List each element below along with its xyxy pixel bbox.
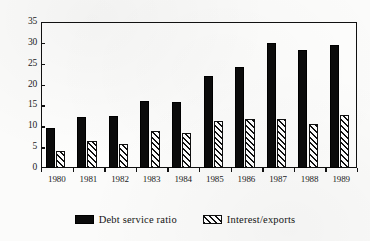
x-tick-mark [357, 168, 358, 172]
bar-group [172, 22, 192, 168]
y-tick-label: 10 [28, 121, 37, 131]
legend-item-interest-exports: Interest/exports [203, 214, 296, 225]
y-tick-label: 5 [32, 142, 37, 152]
bar-debt-service-ratio [330, 45, 339, 168]
x-tick-mark [73, 168, 74, 172]
x-tick-mark [325, 168, 326, 172]
x-tick-mark [104, 168, 105, 172]
x-tick-label: 1983 [137, 174, 167, 184]
bar-group [204, 22, 224, 168]
y-tick-label: 30 [28, 38, 37, 48]
bar-debt-service-ratio [46, 128, 55, 168]
y-tick-label: 15 [28, 100, 37, 110]
bar-interest-exports [340, 115, 349, 168]
y-tick-label: 35 [28, 17, 37, 27]
bar-interest-exports [182, 133, 191, 168]
x-tick-label: 1984 [168, 174, 198, 184]
x-tick-mark [41, 168, 42, 172]
y-tick-mark [41, 43, 45, 44]
x-tick-mark [262, 168, 263, 172]
bar-interest-exports [214, 121, 223, 168]
bar-interest-exports [277, 119, 286, 168]
y-tick-label: 25 [28, 59, 37, 69]
x-tick-label: 1988 [295, 174, 325, 184]
bar-group [267, 22, 287, 168]
bar-interest-exports [245, 119, 254, 168]
x-tick-mark [199, 168, 200, 172]
bar-interest-exports [119, 144, 128, 168]
bar-group [46, 22, 66, 168]
bar-debt-service-ratio [109, 116, 118, 168]
x-tick-mark [294, 168, 295, 172]
plot-area [41, 22, 357, 168]
bar-group [140, 22, 160, 168]
bar-interest-exports [56, 151, 65, 168]
bar-debt-service-ratio [204, 76, 213, 168]
legend-label-debt-service-ratio: Debt service ratio [99, 214, 177, 225]
y-tick-label: 0 [32, 163, 37, 173]
bar-debt-service-ratio [140, 101, 149, 168]
bar-group [77, 22, 97, 168]
legend-item-debt-service-ratio: Debt service ratio [75, 214, 177, 225]
bar-chart: 05101520253035 Debt service ratio Intere… [0, 0, 370, 241]
legend: Debt service ratio Interest/exports [0, 214, 370, 225]
x-tick-label: 1987 [263, 174, 293, 184]
x-tick-label: 1980 [42, 174, 72, 184]
legend-swatch-hatch-icon [203, 215, 222, 224]
bar-interest-exports [309, 124, 318, 168]
bar-debt-service-ratio [77, 117, 86, 168]
x-tick-mark [231, 168, 232, 172]
y-axis: 05101520253035 [14, 0, 37, 241]
bar-debt-service-ratio [235, 67, 244, 168]
x-tick-label: 1985 [200, 174, 230, 184]
x-tick-mark [167, 168, 168, 172]
x-tick-mark [136, 168, 137, 172]
y-tick-mark [41, 126, 45, 127]
bar-debt-service-ratio [298, 50, 307, 168]
legend-swatch-solid-icon [75, 215, 94, 224]
x-tick-label: 1982 [105, 174, 135, 184]
y-tick-mark [41, 64, 45, 65]
bar-interest-exports [87, 141, 96, 168]
y-tick-mark [41, 105, 45, 106]
bar-group [109, 22, 129, 168]
y-tick-mark [41, 147, 45, 148]
bar-debt-service-ratio [267, 43, 276, 168]
y-tick-mark [41, 85, 45, 86]
legend-label-interest-exports: Interest/exports [227, 214, 296, 225]
bar-group [298, 22, 318, 168]
bar-interest-exports [151, 131, 160, 168]
bar-group [235, 22, 255, 168]
x-tick-label: 1986 [231, 174, 261, 184]
bar-debt-service-ratio [172, 102, 181, 168]
bar-group [330, 22, 350, 168]
x-tick-label: 1981 [73, 174, 103, 184]
x-tick-label: 1989 [326, 174, 356, 184]
y-tick-label: 20 [28, 80, 37, 90]
